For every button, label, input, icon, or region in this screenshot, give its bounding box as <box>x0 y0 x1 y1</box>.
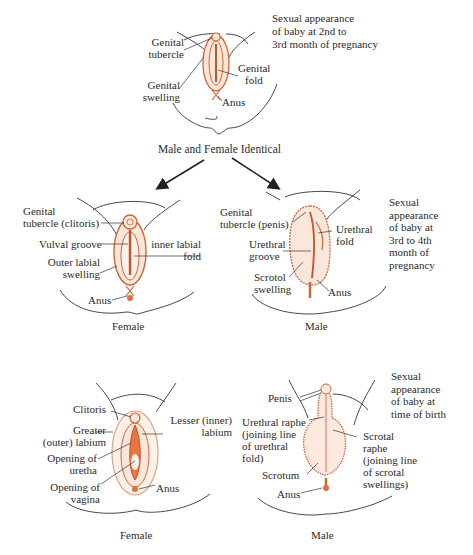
stage2-male-label-urethral-groove: Urethral groove <box>249 238 286 262</box>
stage2-male-label-anus: Anus <box>328 286 351 298</box>
arrow-to-male <box>232 158 278 188</box>
stage2-caption: Sexual appearance of baby at 3rd to 4th … <box>389 196 438 271</box>
stage1-caption: Sexual appearance of baby at 2nd to 3rd … <box>272 12 378 51</box>
stage2-female-label-inner-labial-fold: inner labial fold <box>140 238 201 262</box>
stage1-label-genital-fold: Genital fold <box>238 62 270 86</box>
embryo-genital-development-diagram: Sexual appearance of baby at 2nd to 3rd … <box>0 0 473 555</box>
stage2-male-label-genital-tubercle: Genital tubercle (penis) <box>220 206 289 230</box>
stage2-female-title: Female <box>112 320 144 332</box>
stage1-label-genital-swelling: Genital swelling <box>130 79 180 103</box>
stage3-female-label-opening-vagina: Opening of vagina <box>30 481 100 505</box>
title-banner: Male and Female Identical <box>158 143 281 155</box>
stage3-male-label-urethral-raphe: Urethral raphe (joining line of urethral… <box>242 416 306 464</box>
stage3-male-genital-drawing <box>304 384 346 491</box>
stage3-female-label-opening-urethra: Opening of uretha <box>30 452 97 476</box>
stage3-male-label-scrotum: Scrotum <box>262 469 299 481</box>
caption-line: of baby at 2nd to <box>272 25 378 38</box>
stage2-female-label-outer-labial-swelling: Outer labial swelling <box>40 256 100 280</box>
stage2-male-title: Male <box>305 320 328 332</box>
arrow-to-female <box>158 160 204 188</box>
stage3-female-label-greater-labium: Greater (outer) labium <box>20 424 106 448</box>
stage3-female-label-lesser-labium: Lesser (inner) labium <box>164 414 232 438</box>
stage3-female-genital-drawing <box>112 411 158 495</box>
stage2-male-label-urethral-fold: Urethral fold <box>336 223 373 247</box>
caption-line: 3rd month of pregnancy <box>272 38 378 51</box>
stage2-female-label-anus: Anus <box>88 294 111 306</box>
stage3-male-title: Male <box>311 529 334 541</box>
branch-arrows <box>158 158 278 188</box>
stage2-female-label-vulval-groove: Vulval groove <box>39 238 102 250</box>
stage3-female-label-anus: Anus <box>156 482 179 494</box>
stage2-female-label-genital-tubercle: Genital tubercle (clitoris) <box>23 205 99 229</box>
caption-line: Sexual appearance <box>272 12 378 25</box>
stage3-male-label-penis: Penis <box>268 392 292 404</box>
stage3-male-label-scrotal-raphe: Scrotal raphe (joining line of scrotal s… <box>363 430 417 490</box>
stage1-label-genital-tubercle: Genital tubercle <box>136 36 184 60</box>
stage3-female-title: Female <box>120 529 152 541</box>
stage3-male-label-anus: Anus <box>277 488 300 500</box>
stage3-caption: Sexual appearance of baby at time of bir… <box>391 370 446 420</box>
stage1-genital-drawing <box>203 33 229 100</box>
stage2-male-label-scrotol-swelling: Scrotol swelling <box>254 271 291 295</box>
stage3-female-label-clitoris: Clitoris <box>73 403 106 415</box>
stage1-label-anus: Anus <box>222 96 245 108</box>
